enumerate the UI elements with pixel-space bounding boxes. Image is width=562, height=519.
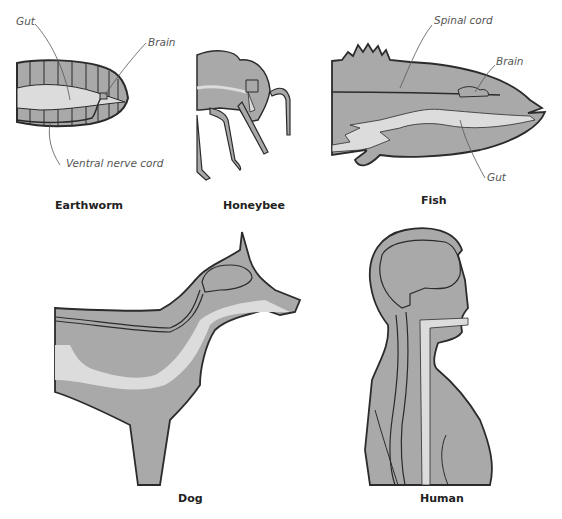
earthworm-caption: Earthworm: [55, 199, 123, 212]
gut-label: Gut: [16, 15, 35, 27]
fish-panel: Spinal cord Brain Gut Fish: [320, 0, 562, 220]
fish-caption: Fish: [421, 194, 447, 207]
spinal-cord-label: Spinal cord: [434, 14, 493, 26]
brain-label: Brain: [496, 55, 524, 67]
dog-caption: Dog: [178, 492, 203, 505]
fish-illustration: [320, 0, 562, 220]
earthworm-panel: Gut Brain Ventral nerve cord Earthworm: [0, 0, 190, 220]
ventral-nerve-cord-label: Ventral nerve cord: [66, 157, 163, 169]
earthworm-illustration: [0, 0, 190, 220]
honeybee-caption: Honeybee: [223, 199, 285, 212]
brain-label: Brain: [148, 36, 176, 48]
honeybee-illustration: [180, 30, 320, 220]
human-illustration: [350, 220, 550, 519]
honeybee-panel: Honeybee: [180, 30, 320, 220]
nerve-cord-pointer: [49, 124, 60, 165]
human-caption: Human: [420, 492, 464, 505]
gut-label: Gut: [487, 171, 506, 183]
human-panel: Human: [350, 220, 550, 519]
dog-illustration: [40, 220, 320, 519]
dog-panel: Dog: [40, 220, 320, 519]
